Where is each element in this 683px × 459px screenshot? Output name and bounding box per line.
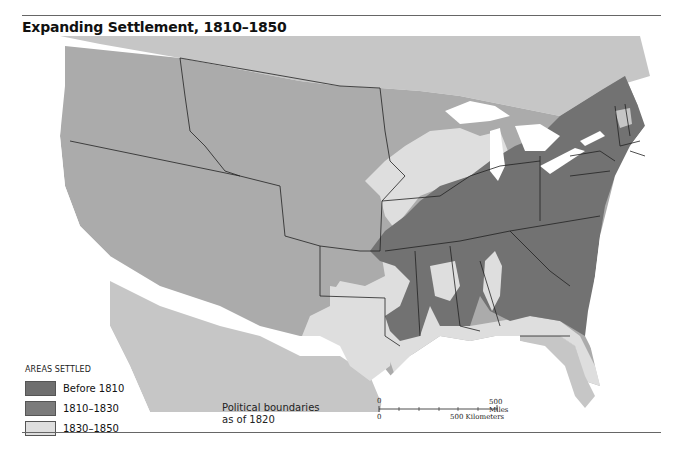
legend-item-1810-1830: 1810–1830 bbox=[25, 398, 124, 418]
scale-miles-label: 500 Miles bbox=[489, 398, 516, 414]
bottom-rule bbox=[22, 432, 661, 433]
legend-swatch-1810-1830 bbox=[25, 401, 56, 416]
legend-item-1830-1850: 1830–1850 bbox=[25, 418, 124, 438]
legend-item-before-1810: Before 1810 bbox=[25, 378, 124, 398]
legend-label: Before 1810 bbox=[63, 383, 124, 394]
boundaries-note: Political boundaries as of 1820 bbox=[222, 402, 342, 426]
settlement-map bbox=[40, 36, 660, 412]
legend-heading: AREAS SETTLED bbox=[25, 365, 124, 374]
top-rule bbox=[22, 15, 661, 16]
legend-swatch-1830-1850 bbox=[25, 421, 56, 436]
legend: AREAS SETTLED Before 1810 1810–1830 1830… bbox=[25, 365, 124, 438]
scale-km-zero: 0 bbox=[377, 413, 381, 421]
boundaries-note-line1: Political boundaries bbox=[222, 402, 342, 414]
scale-km-label: 500 Kilometers bbox=[450, 413, 504, 421]
scale-bar: 0 500 Miles 0 500 Kilometers bbox=[376, 396, 516, 426]
map-title: Expanding Settlement, 1810–1850 bbox=[22, 19, 287, 35]
boundaries-note-line2: as of 1820 bbox=[222, 414, 342, 426]
legend-swatch-before-1810 bbox=[25, 381, 56, 396]
legend-label: 1810–1830 bbox=[63, 403, 119, 414]
scale-miles-zero: 0 bbox=[377, 397, 381, 405]
